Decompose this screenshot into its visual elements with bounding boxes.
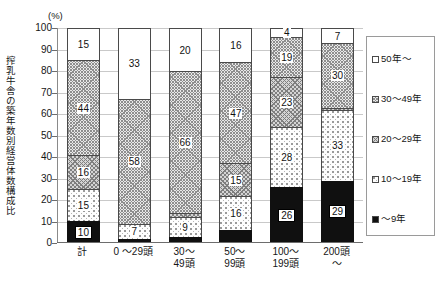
bar-segment-value: 47 [229,108,242,119]
bar-segment-value: 16 [229,40,242,51]
legend-label: 10〜19年 [381,174,422,184]
bar-segment-value: 33 [331,140,344,151]
bar-segment[interactable]: 33 [118,28,151,99]
gridline [58,136,363,137]
y-tick-mark [52,71,57,72]
stacked-bar-chart: 搾乳牛舎の築年数別経営体数構成比 (%) 0102030405060708090… [0,0,439,283]
gridline [58,200,363,201]
bar-segment[interactable]: 33 [321,110,354,181]
bar-100〜199頭[interactable]: 419232826 [270,28,303,243]
bar-segment-value: 15 [77,200,90,211]
legend-item-30〜49年[interactable]: 30〜49年 [372,94,422,104]
legend-swatch-icon [372,136,379,143]
bar-segment[interactable]: 16 [219,196,252,230]
bar-segment[interactable]: 15 [67,28,100,60]
plot-area: 1544161510335872066916471516419232826730… [57,28,362,243]
x-axis-line [57,242,363,243]
bar-50〜99頭[interactable]: 16471516 [219,28,252,243]
bar-segment[interactable]: 28 [270,127,303,187]
legend-item-20〜29年[interactable]: 20〜29年 [372,134,422,144]
bar-segment-value: 26 [278,209,295,222]
chart-legend: 50年〜30〜49年20〜29年10〜19年〜9年 [366,36,435,236]
bar-segment[interactable]: 47 [219,62,252,163]
bar-segment[interactable]: 66 [169,71,202,213]
bar-segment-value: 30 [331,70,344,81]
x-tick-label-line: 〜 [306,258,368,270]
y-tick-mark [52,28,57,29]
bar-segment[interactable]: 44 [67,60,100,155]
bar-segment[interactable]: 15 [67,189,100,221]
legend-swatch-icon [372,176,379,183]
bar-segment[interactable]: 16 [219,28,252,62]
bar-segment-value: 29 [329,205,346,218]
bar-segment-value: 19 [280,52,293,63]
gridline [58,222,363,223]
gridline [58,114,363,115]
bar-segment[interactable]: 9 [169,217,202,236]
bar-segment-value: 16 [229,208,242,219]
y-tick-mark [52,136,57,137]
y-axis-unit-label: (%) [48,10,63,21]
bar-segment-value: 9 [181,222,189,233]
y-tick-label: 80 [26,66,52,76]
bar-segment[interactable]: 20 [169,28,202,71]
bar-segment[interactable]: 29 [321,181,354,243]
bar-segment-value: 28 [280,152,293,163]
bar-segment[interactable]: 23 [270,77,303,126]
bar-segment[interactable]: 30 [321,43,354,108]
y-tick-mark [52,179,57,180]
legend-item-10〜19年[interactable]: 10〜19年 [372,174,422,184]
bar-segment-value: 7 [334,31,342,42]
bar-segment-value: 58 [128,156,141,167]
bar-segment-value: 16 [77,167,90,178]
legend-label: 30〜49年 [381,94,422,104]
y-tick-mark [52,93,57,94]
bar-segment[interactable]: 19 [270,37,303,78]
gridline [58,157,363,158]
bar-segment-value: 66 [179,137,192,148]
bar-segment[interactable]: 16 [67,155,100,189]
bar-30〜49頭[interactable]: 20669 [169,28,202,243]
legend-label: 〜9年 [381,214,406,224]
bar-segment-value: 4 [283,27,291,38]
y-tick-mark [52,114,57,115]
y-tick-label: 30 [26,174,52,184]
y-tick-mark [52,243,57,244]
bar-segment-value: 33 [128,58,141,69]
bar-0〜29頭[interactable]: 33587 [118,28,151,243]
legend-item-50年〜[interactable]: 50年〜 [372,54,412,64]
legend-swatch-icon [372,56,379,63]
bar-segment-value: 7 [130,226,138,237]
bar-計[interactable]: 1544161510 [67,28,100,243]
bar-segment[interactable]: 7 [321,28,354,43]
y-tick-label: 50 [26,131,52,141]
y-tick-label: 90 [26,45,52,55]
y-tick-mark [52,200,57,201]
bar-segment-value: 20 [179,45,192,56]
legend-item-〜9年[interactable]: 〜9年 [372,214,406,224]
bar-segment[interactable]: 4 [270,28,303,37]
x-axis-tick-labels: 計0 〜29頭30〜49頭50〜99頭100〜199頭200頭〜 [57,246,362,282]
bar-segment[interactable]: 58 [118,99,151,224]
y-tick-mark [52,157,57,158]
legend-swatch-icon [372,96,379,103]
gridline [58,50,363,51]
legend-label: 50年〜 [381,54,412,64]
legend-swatch-icon [372,216,379,223]
bar-segment[interactable]: 10 [67,221,100,243]
x-tick-label-line: 200頭 [306,246,368,258]
gridline [58,93,363,94]
bar-200頭〜[interactable]: 7303329 [321,28,354,243]
bar-segment[interactable]: 15 [219,163,252,195]
bar-segment-value: 44 [77,103,90,114]
y-tick-mark [52,50,57,51]
gridline [58,71,363,72]
bar-segment[interactable]: 26 [270,187,303,243]
x-tick-label: 200頭〜 [306,246,368,269]
bar-segment-value: 15 [77,39,90,50]
y-tick-label: 0 [26,238,52,248]
bar-segment-value: 15 [229,175,242,186]
y-axis-title: 搾乳牛舎の築年数別経営体数構成比 [2,28,18,243]
y-tick-label: 20 [26,195,52,205]
bar-segment[interactable]: 7 [118,224,151,239]
